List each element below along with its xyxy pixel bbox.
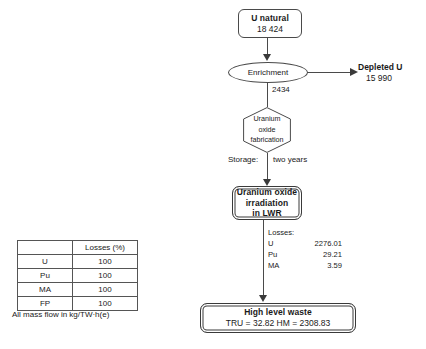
losses-percent-table: Losses (%) U 100 Pu 100 MA 100 FP 100 xyxy=(17,240,138,311)
table-row: MA 100 xyxy=(18,283,138,297)
diagram-canvas: U natural 18 424 Enrichment Depleted U 1… xyxy=(0,0,426,349)
node-irradiation-line2: irradiation xyxy=(246,198,289,209)
node-hlw-value: TRU = 32.82 HM = 2308.83 xyxy=(226,318,330,329)
table-cell-label: MA xyxy=(18,283,73,297)
table-row: FP 100 xyxy=(18,297,138,311)
losses-annotation-row: Pu 29.21 xyxy=(268,249,342,260)
node-u-natural: U natural 18 424 xyxy=(238,9,302,38)
table-cell-label: FP xyxy=(18,297,73,311)
footnote-units: All mass flow in kg/TW·h(e) xyxy=(12,310,109,319)
losses-row-value: 2276.01 xyxy=(294,238,342,249)
losses-row-name: Pu xyxy=(268,249,294,260)
arrowhead-into-enrichment xyxy=(263,54,271,61)
table-cell-value: 100 xyxy=(73,297,138,311)
losses-annotation: Losses: U 2276.01 Pu 29.21 MA 3.59 xyxy=(268,227,342,271)
label-enriched-stream: 2434 xyxy=(272,85,290,94)
table-cell-value: 100 xyxy=(73,255,138,269)
connector-enrichment-to-depleted xyxy=(307,72,351,73)
table-corner-cell xyxy=(18,241,73,255)
label-storage-key: Storage: xyxy=(228,155,258,164)
arrowhead-into-hlw xyxy=(259,295,267,302)
node-uranium-oxide-irradiation: Uranium oxide irradiation in LWR xyxy=(232,186,302,220)
losses-row-value: 3.59 xyxy=(294,260,342,271)
connector-enrichment-to-fabrication xyxy=(267,83,268,107)
node-u-natural-value: 18 424 xyxy=(257,24,283,35)
node-fabrication-line1: Uranium xyxy=(253,114,280,124)
losses-row-name: MA xyxy=(268,260,294,271)
table-header-losses: Losses (%) xyxy=(73,241,138,255)
table-cell-value: 100 xyxy=(73,269,138,283)
table-row: Pu 100 xyxy=(18,269,138,283)
node-fabrication-line3: fabrication xyxy=(250,135,283,145)
connector-irradiation-to-hlw xyxy=(263,220,264,296)
node-enrichment: Enrichment xyxy=(228,62,308,83)
table-cell-value: 100 xyxy=(73,283,138,297)
label-depleted-u-value: 15 990 xyxy=(366,73,392,83)
losses-annotation-row: MA 3.59 xyxy=(268,260,342,271)
node-uranium-oxide-fabrication: Uranium oxide fabrication xyxy=(243,107,291,153)
losses-row-name: U xyxy=(268,238,294,249)
losses-row-value: 29.21 xyxy=(294,249,342,260)
label-depleted-u-title: Depleted U xyxy=(358,62,402,72)
losses-annotation-row: U 2276.01 xyxy=(268,238,342,249)
node-u-natural-title: U natural xyxy=(251,13,289,24)
table-row: U 100 xyxy=(18,255,138,269)
arrowhead-into-irradiation xyxy=(263,179,271,186)
table-header-row: Losses (%) xyxy=(18,241,138,255)
losses-annotation-heading: Losses: xyxy=(268,227,342,238)
arrowhead-into-depleted xyxy=(350,68,358,76)
label-storage-value: two years xyxy=(273,155,307,164)
node-hlw-title: High level waste xyxy=(244,307,312,318)
node-enrichment-label: Enrichment xyxy=(248,68,288,77)
node-irradiation-line3: in LWR xyxy=(252,208,281,219)
node-fabrication-line2: oxide xyxy=(258,125,275,135)
table-cell-label: U xyxy=(18,255,73,269)
table-cell-label: Pu xyxy=(18,269,73,283)
node-high-level-waste: High level waste TRU = 32.82 HM = 2308.8… xyxy=(200,303,356,333)
node-irradiation-line1: Uranium oxide xyxy=(237,187,297,198)
connector-unatural-to-enrichment xyxy=(267,38,268,55)
connector-fabrication-to-irradiation xyxy=(267,153,268,180)
